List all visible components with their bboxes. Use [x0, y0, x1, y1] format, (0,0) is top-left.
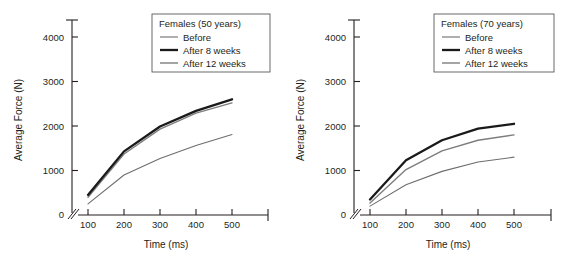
chart-svg-left: 4000 3000 2000 1000 0 Average Force (N) …	[0, 0, 282, 261]
y-tick-labels-left: 4000 3000 2000 1000 0	[43, 32, 64, 221]
series-line-before	[370, 157, 514, 206]
y-tick-label: 0	[59, 209, 64, 220]
x-tick-labels-left: 100 200 300 400 500	[80, 219, 240, 230]
legend-label-after-12-weeks: After 12 weeks	[465, 58, 528, 69]
legend-label-before: Before	[465, 32, 493, 43]
chart-svg-right: 4000 3000 2000 1000 0 Average Force (N) …	[282, 0, 565, 261]
y-tick-labels-right: 4000 3000 2000 1000 0	[325, 32, 346, 221]
legend-label-after-12-weeks: After 12 weeks	[183, 58, 246, 69]
series-line-after-8-weeks	[370, 124, 514, 200]
series-line-after-12-weeks	[88, 103, 232, 197]
y-axis-title-right: Average Force (N)	[295, 79, 306, 161]
x-tick-label: 100	[362, 219, 378, 230]
y-axis-title-left: Average Force (N)	[13, 79, 24, 161]
legend-title-right: Females (70 years)	[441, 18, 523, 29]
x-axis-right	[360, 209, 551, 221]
x-tick-label: 500	[506, 219, 522, 230]
y-tick-label: 0	[341, 209, 346, 220]
series-line-after-8-weeks	[88, 99, 232, 195]
y-tick-label: 1000	[43, 165, 64, 176]
series-lines-left	[88, 99, 232, 204]
y-tick-label: 1000	[325, 165, 346, 176]
legend-title-left: Females (50 years)	[159, 18, 241, 29]
x-tick-label: 400	[470, 219, 486, 230]
legend-label-after-8-weeks: After 8 weeks	[465, 45, 523, 56]
y-tick-label: 4000	[43, 32, 64, 43]
y-tick-label: 2000	[43, 121, 64, 132]
x-tick-label: 400	[188, 219, 204, 230]
chart-panel-females-50: 4000 3000 2000 1000 0 Average Force (N) …	[0, 0, 282, 261]
y-tick-label: 2000	[325, 121, 346, 132]
x-tick-labels-right: 100 200 300 400 500	[362, 219, 522, 230]
y-tick-label: 4000	[325, 32, 346, 43]
chart-panel-females-70: 4000 3000 2000 1000 0 Average Force (N) …	[282, 0, 564, 261]
x-tick-label: 100	[80, 219, 96, 230]
x-tick-label: 200	[116, 219, 132, 230]
legend-label-after-8-weeks: After 8 weeks	[183, 45, 241, 56]
y-tick-label: 3000	[325, 76, 346, 87]
x-axis-title-left: Time (ms)	[144, 239, 189, 250]
y-tick-label: 3000	[43, 76, 64, 87]
series-lines-right	[370, 124, 514, 206]
x-tick-label: 300	[152, 219, 168, 230]
y-axis-right	[348, 20, 361, 219]
x-axis-title-right: Time (ms)	[426, 239, 471, 250]
twin-line-chart-figure: 4000 3000 2000 1000 0 Average Force (N) …	[0, 0, 565, 261]
x-tick-label: 300	[434, 219, 450, 230]
x-tick-label: 500	[224, 219, 240, 230]
legend-left: Females (50 years) Before After 8 weeks …	[152, 14, 270, 72]
x-tick-label: 200	[398, 219, 414, 230]
legend-right: Females (70 years) Before After 8 weeks …	[434, 14, 554, 72]
y-axis-left	[66, 20, 79, 219]
legend-label-before: Before	[183, 32, 211, 43]
